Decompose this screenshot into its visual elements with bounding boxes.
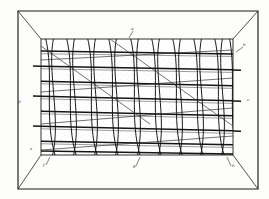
engraving-plate: WIRE MESH MOULD <box>0 0 269 199</box>
wire-mesh-figure: a b c d e f g h <box>0 0 269 199</box>
